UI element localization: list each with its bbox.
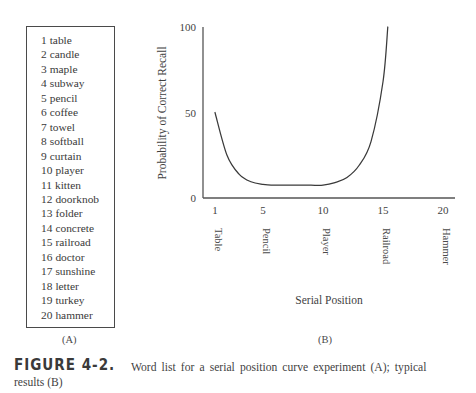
word-list-item: 8softball	[41, 134, 114, 148]
word-list-item-number: 12	[41, 193, 52, 205]
panel-a-label: (A)	[62, 334, 77, 345]
word-list-item-word: concrete	[55, 222, 94, 234]
word-list-item-word: railroad	[55, 236, 90, 248]
word-list-item: 14concrete	[41, 221, 114, 235]
word-list: 1table2candle3maple4subway5pencil6coffee…	[27, 27, 114, 322]
word-list-item-number: 5	[41, 92, 47, 104]
x-tick-label: 15	[378, 204, 390, 216]
x-tick-labels: 15101520	[212, 204, 449, 216]
word-list-item-number: 11	[41, 179, 52, 191]
word-list-item: 5pencil	[41, 91, 114, 105]
word-list-item-number: 17	[41, 265, 52, 277]
word-list-item: 13folder	[41, 206, 114, 220]
x-axis-title: Serial Position	[295, 294, 363, 306]
word-list-item: 7towel	[41, 120, 114, 134]
chart-svg: 050100 15101520 TablePencilPlayerRailroa…	[150, 14, 470, 324]
x-tick-word-label: Player	[321, 228, 332, 255]
word-list-item-word: candle	[50, 48, 80, 60]
word-list-item-word: maple	[50, 63, 78, 75]
x-tick-word-labels: TablePencilPlayerRailroadHammer	[213, 228, 452, 265]
word-list-item-word: table	[50, 34, 72, 46]
word-list-item-word: hammer	[55, 309, 92, 321]
word-list-item-number: 2	[41, 48, 47, 60]
word-list-item: 2candle	[41, 47, 114, 61]
panel-b-label: (B)	[318, 334, 332, 345]
y-axis-title: Probability of Correct Recall	[156, 46, 169, 179]
word-list-item-word: doctor	[55, 251, 84, 263]
word-list-item-number: 4	[41, 77, 47, 89]
word-list-item-number: 15	[41, 236, 52, 248]
x-tick-word-label: Pencil	[261, 228, 272, 254]
word-list-item-word: letter	[55, 280, 78, 292]
figure-caption-tail: results (B)	[14, 376, 63, 389]
word-list-box: 1table2candle3maple4subway5pencil6coffee…	[26, 26, 115, 328]
word-list-item-number: 6	[41, 106, 47, 118]
word-list-item: 3maple	[41, 62, 114, 76]
word-list-item-number: 7	[41, 121, 47, 133]
y-tick-label: 0	[191, 192, 197, 204]
word-list-item-number: 16	[41, 251, 52, 263]
x-tick-word-label: Hammer	[441, 228, 452, 265]
word-list-item: 12doorknob	[41, 192, 114, 206]
x-tick-label: 10	[318, 204, 330, 216]
word-list-item: 4subway	[41, 76, 114, 90]
figure-caption-text: Word list for a serial position curve ex…	[131, 360, 476, 375]
x-tick-word-label: Table	[213, 228, 224, 252]
word-list-item: 16doctor	[41, 250, 114, 264]
word-list-item-number: 8	[41, 135, 47, 147]
y-tick-label: 50	[185, 107, 197, 119]
word-list-item-word: kitten	[55, 179, 81, 191]
word-list-item-word: softball	[50, 135, 84, 147]
word-list-item: 18letter	[41, 279, 114, 293]
figure-caption: FIGURE 4-2. Word list for a serial posit…	[14, 355, 469, 374]
word-list-item: 15railroad	[41, 235, 114, 249]
word-list-item: 6coffee	[41, 105, 114, 119]
x-tick-label: 5	[260, 204, 266, 216]
word-list-item-word: towel	[50, 121, 75, 133]
word-list-item-word: turkey	[55, 294, 84, 306]
y-tick-label: 100	[180, 21, 197, 33]
word-list-item: 9curtain	[41, 149, 114, 163]
word-list-item-word: subway	[50, 77, 85, 89]
x-tick-label: 1	[212, 204, 218, 216]
word-list-item-number: 18	[41, 280, 52, 292]
word-list-item-word: folder	[55, 207, 82, 219]
word-list-item-number: 14	[41, 222, 52, 234]
x-tick-word-label: Railroad	[381, 228, 392, 265]
word-list-item: 11kitten	[41, 178, 114, 192]
word-list-item: 1table	[41, 33, 114, 47]
word-list-item-number: 10	[41, 164, 52, 176]
word-list-item-number: 20	[41, 309, 52, 321]
word-list-item: 19turkey	[41, 293, 114, 307]
word-list-item-word: pencil	[50, 92, 78, 104]
serial-position-chart: 050100 15101520 TablePencilPlayerRailroa…	[150, 14, 470, 324]
word-list-item: 10player	[41, 163, 114, 177]
word-list-item-number: 9	[41, 150, 47, 162]
word-list-item-word: player	[55, 164, 83, 176]
word-list-item-word: curtain	[50, 150, 82, 162]
x-tick-label: 20	[438, 204, 450, 216]
word-list-item-number: 1	[41, 34, 47, 46]
figure-number: FIGURE 4-2.	[14, 355, 115, 374]
word-list-item: 20hammer	[41, 308, 114, 322]
word-list-item-word: coffee	[50, 106, 78, 118]
word-list-item-word: doorknob	[55, 193, 99, 205]
word-list-item-number: 13	[41, 207, 52, 219]
word-list-item: 17sunshine	[41, 264, 114, 278]
y-tick-labels: 050100	[180, 21, 197, 204]
word-list-item-number: 19	[41, 294, 52, 306]
word-list-item-word: sunshine	[55, 265, 95, 277]
serial-position-curve	[215, 27, 388, 185]
word-list-item-number: 3	[41, 63, 47, 75]
